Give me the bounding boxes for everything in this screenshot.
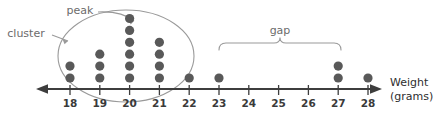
x-axis-tick-label-23: 23	[212, 97, 227, 109]
data-dot-21-1	[155, 73, 164, 82]
data-dot-19-3	[95, 50, 104, 59]
dot-plot-canvas: peak cluster gap 1819202122232425262728 …	[0, 0, 443, 119]
x-axis-title-line1: Weight	[390, 76, 429, 89]
data-dot-19-1	[95, 73, 104, 82]
annotation-label-peak: peak	[67, 4, 94, 17]
gap-bracket	[219, 38, 341, 51]
x-axis	[36, 84, 382, 94]
data-dot-20-5	[125, 26, 134, 35]
axis-arrow-right	[370, 84, 382, 94]
data-dot-20-2	[125, 62, 134, 71]
data-dot-18-2	[65, 62, 74, 71]
axis-arrow-left	[36, 84, 48, 94]
x-axis-tick-label-22: 22	[182, 97, 197, 109]
data-dot-20-1	[125, 73, 134, 82]
data-dot-18-1	[65, 73, 74, 82]
x-axis-tick-label-19: 19	[92, 97, 107, 109]
data-dot-23-1	[214, 73, 223, 82]
data-dot-27-1	[334, 73, 343, 82]
data-dot-20-3	[125, 50, 134, 59]
data-dot-21-3	[155, 50, 164, 59]
annotation-label-gap: gap	[270, 24, 291, 37]
x-axis-tick-label-24: 24	[241, 97, 256, 109]
data-dot-21-4	[155, 38, 164, 47]
x-axis-tick-label-21: 21	[152, 97, 167, 109]
x-axis-tick-label-26: 26	[301, 97, 316, 109]
x-axis-tick-labels: 1819202122232425262728	[63, 97, 376, 109]
data-dot-27-2	[334, 62, 343, 71]
annotation-label-cluster: cluster	[7, 27, 45, 40]
data-dot-19-2	[95, 62, 104, 71]
x-axis-tick-label-18: 18	[63, 97, 78, 109]
x-axis-tick-label-28: 28	[361, 97, 376, 109]
x-axis-title-line2: (grams)	[390, 90, 433, 103]
x-axis-tick-label-20: 20	[122, 97, 137, 109]
data-dot-20-4	[125, 38, 134, 47]
data-dot-28-1	[363, 73, 372, 82]
cluster-callout-arrow	[52, 35, 68, 44]
dot-plot-figure: peak cluster gap 1819202122232425262728 …	[0, 0, 443, 119]
data-dot-22-1	[185, 73, 194, 82]
data-dot-21-2	[155, 62, 164, 71]
x-axis-tick-label-25: 25	[271, 97, 286, 109]
data-dot-20-6	[125, 14, 134, 23]
x-axis-tick-label-27: 27	[331, 97, 346, 109]
